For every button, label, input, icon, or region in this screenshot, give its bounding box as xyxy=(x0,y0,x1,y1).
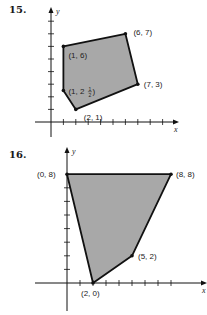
y-axis-arrow-icon xyxy=(49,7,54,13)
x-axis-arrow-icon xyxy=(201,281,207,286)
graph-16: xy(0, 8)(8, 8)(5, 2)(2, 0) xyxy=(35,147,207,311)
vertex-label-close: ) xyxy=(92,87,95,96)
vertex-point xyxy=(136,82,140,86)
vertex-label: (7, 3) xyxy=(144,80,163,89)
feasible-region xyxy=(63,34,137,110)
graph-15: xy(1, 6)(6, 7)(7, 3)(2, 1)(1, 212) xyxy=(35,7,179,137)
vertex-point xyxy=(62,89,66,93)
vertex-label: (6, 7) xyxy=(133,28,152,37)
vertex-point xyxy=(91,281,95,285)
vertex-point xyxy=(124,32,128,36)
y-axis-label: y xyxy=(71,147,76,156)
y-axis-label: y xyxy=(55,7,60,16)
vertex-point xyxy=(169,172,173,176)
vertex-label: (1, 6) xyxy=(68,51,87,60)
feasible-region xyxy=(67,174,171,283)
x-axis-label: x xyxy=(201,286,206,295)
vertex-point xyxy=(62,45,66,49)
vertex-label: (8, 8) xyxy=(176,170,195,179)
problem-number-16: 16. xyxy=(9,149,26,160)
vertex-label: (2, 1) xyxy=(84,113,103,122)
vertex-point xyxy=(130,254,134,258)
figure: 15. xy(1, 6)(6, 7)(7, 3)(2, 1)(1, 212) 1… xyxy=(0,0,207,315)
fraction-denominator: 2 xyxy=(88,92,91,98)
vertex-point xyxy=(65,172,69,176)
vertex-label: (1, 2 xyxy=(68,87,85,96)
vertex-point xyxy=(74,108,78,112)
vertex-label: (2, 0) xyxy=(81,289,100,298)
vertex-label: (0, 8) xyxy=(37,170,56,179)
y-axis-arrow-icon xyxy=(65,147,70,153)
x-axis-arrow-icon xyxy=(173,120,179,125)
vertex-label: (5, 2) xyxy=(138,252,157,261)
problem-number-15: 15. xyxy=(9,4,26,15)
x-axis-label: x xyxy=(173,125,178,134)
